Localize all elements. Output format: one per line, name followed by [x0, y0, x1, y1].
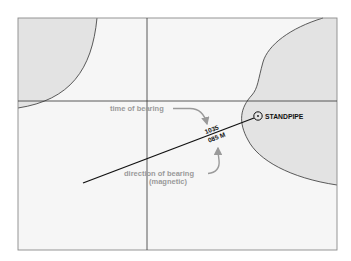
annotation-magnetic: (magnetic) — [149, 177, 187, 186]
annotation-time-of-bearing: time of bearing — [110, 104, 164, 113]
bearing-diagram: STANDPIPE 1035 085 M time of bearing dir… — [0, 0, 351, 261]
landmark-label: STANDPIPE — [265, 113, 304, 120]
